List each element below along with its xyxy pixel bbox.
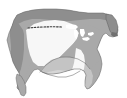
map-figure: Grayscale thematic map of North America … <box>0 0 127 98</box>
north-america-map-svg: Grayscale thematic map of North America … <box>0 0 127 98</box>
